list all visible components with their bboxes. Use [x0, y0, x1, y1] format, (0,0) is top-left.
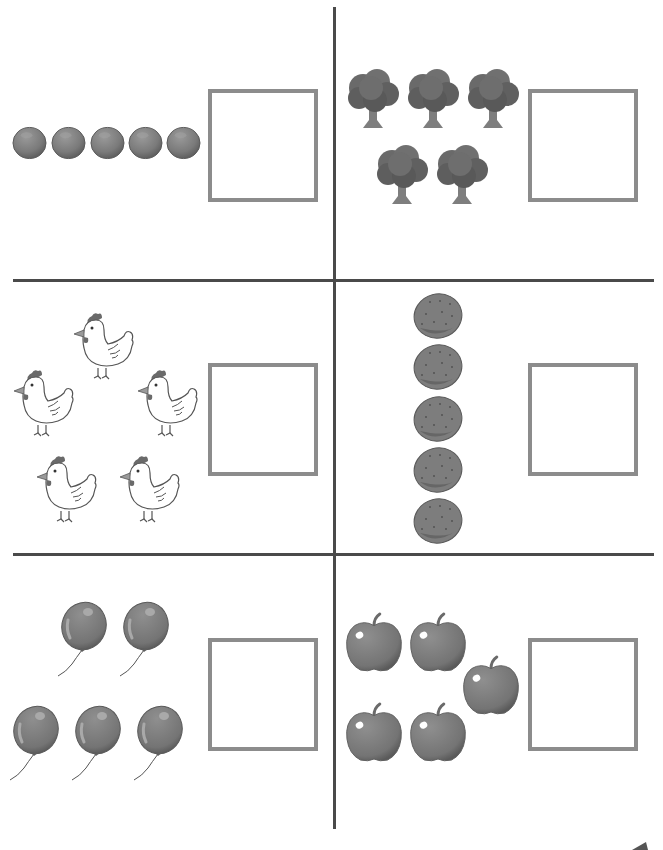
- apple-icon: [409, 612, 467, 672]
- tree-icon: [434, 144, 490, 206]
- chicken-icon: [33, 453, 97, 525]
- tree-icon: [405, 68, 461, 130]
- balloon-icon: [66, 704, 126, 784]
- potato-icon: [412, 343, 464, 391]
- stone-icon: [128, 125, 163, 161]
- horizontal-divider-top: [13, 279, 654, 282]
- chicken-icon: [116, 453, 180, 525]
- balloon-icon: [114, 600, 174, 680]
- answer-box-potatoes[interactable]: [528, 363, 638, 476]
- chicken-icon: [134, 367, 198, 439]
- apple-icon: [345, 612, 403, 672]
- answer-box-trees[interactable]: [528, 89, 638, 202]
- balloon-icon: [52, 600, 112, 680]
- chicken-icon: [70, 310, 134, 382]
- answer-box-balloons[interactable]: [208, 638, 318, 751]
- vertical-divider: [333, 7, 336, 829]
- chicken-icon: [10, 367, 74, 439]
- page-curl-mark: [630, 840, 650, 850]
- stone-icon: [166, 125, 201, 161]
- answer-box-chickens[interactable]: [208, 363, 318, 476]
- potato-icon: [412, 292, 464, 340]
- tree-icon: [465, 68, 521, 130]
- balloon-icon: [4, 704, 64, 784]
- answer-box-apples[interactable]: [528, 638, 638, 751]
- balloon-icon: [128, 704, 188, 784]
- answer-box-stones[interactable]: [208, 89, 318, 202]
- potato-icon: [412, 395, 464, 443]
- tree-icon: [374, 144, 430, 206]
- apple-icon: [345, 702, 403, 762]
- horizontal-divider-bottom: [13, 553, 654, 556]
- apple-icon: [409, 702, 467, 762]
- stone-icon: [12, 125, 47, 161]
- apple-icon: [462, 655, 520, 715]
- potato-icon: [412, 446, 464, 494]
- stone-icon: [51, 125, 86, 161]
- tree-icon: [345, 68, 401, 130]
- stone-icon: [90, 125, 125, 161]
- potato-icon: [412, 497, 464, 545]
